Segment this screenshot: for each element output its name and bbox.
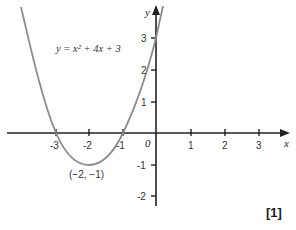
vertex-label: (−2, −1) (69, 169, 104, 180)
parabola-curve (21, 6, 163, 165)
x-tick-label: -1 (116, 140, 125, 151)
y-tick-label: -1 (137, 160, 146, 171)
y-axis-arrow-icon (152, 5, 160, 15)
marks-label: [1] (266, 205, 282, 220)
y-axis-label: y (144, 6, 150, 18)
y-tick-label: -2 (137, 191, 146, 202)
x-tick-label: 2 (222, 140, 228, 151)
x-tick-label: -3 (50, 140, 59, 151)
y-tick-label: 3 (141, 33, 147, 44)
y-tick-label: 1 (141, 97, 147, 108)
x-axis-label: x (283, 137, 289, 149)
equation-label: y = x² + 4x + 3 (55, 43, 121, 54)
x-tick-label: 3 (256, 140, 262, 151)
origin-label: 0 (145, 137, 151, 149)
y-tick-label: 2 (141, 65, 147, 76)
graph-canvas: -3 -2 -1 1 2 3 3 2 1 -1 -2 0 x y y = x² … (0, 0, 296, 230)
x-axis-arrow-icon (280, 129, 290, 137)
x-tick-label: -2 (83, 140, 92, 151)
x-tick-label: 1 (188, 140, 194, 151)
